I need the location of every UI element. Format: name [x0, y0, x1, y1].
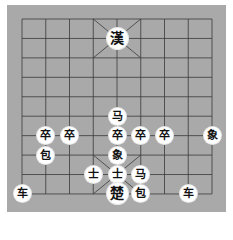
- piece-elephant[interactable]: 象: [109, 147, 126, 164]
- piece-advisor[interactable]: 士: [109, 166, 126, 183]
- piece-horse[interactable]: 马: [109, 108, 126, 125]
- piece-general-red[interactable]: 楚: [107, 183, 128, 204]
- piece-soldier[interactable]: 卒: [109, 127, 126, 144]
- piece-elephant[interactable]: 象: [204, 127, 221, 144]
- piece-cannon[interactable]: 包: [37, 147, 54, 164]
- piece-advisor[interactable]: 士: [85, 166, 102, 183]
- piece-chariot[interactable]: 车: [14, 185, 31, 202]
- piece-soldier[interactable]: 卒: [156, 127, 173, 144]
- piece-soldier[interactable]: 卒: [61, 127, 78, 144]
- piece-general-black[interactable]: 漢: [107, 28, 128, 49]
